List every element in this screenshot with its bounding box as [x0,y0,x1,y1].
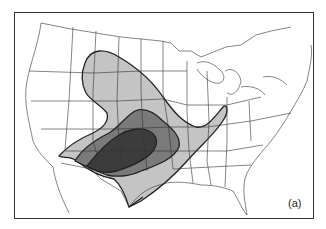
map-frame: (a) [14,12,314,219]
panel-label: (a) [288,197,301,209]
us-map [15,13,314,219]
